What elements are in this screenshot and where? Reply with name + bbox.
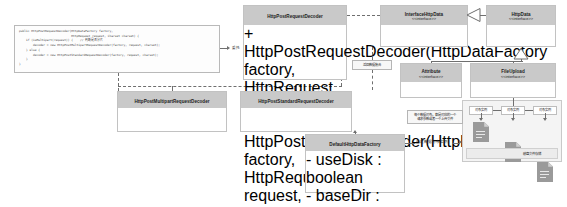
instance-to-doc-arrow (511, 118, 515, 121)
note-connector-returns-collection-down (372, 70, 373, 90)
creates-objects-label: 创建数据对象实例 (416, 139, 448, 144)
disk-storage-strip (466, 148, 558, 159)
empty-compartment (401, 82, 461, 85)
code-snippet-block: public HttpPostRequestDecoder(HttpDataFa… (14, 25, 220, 73)
note-connector-returns-collection (372, 47, 373, 60)
dashed-branch-left-vertical (118, 73, 119, 91)
generalization-arrowhead-httpdata (466, 7, 482, 23)
document-icon (473, 122, 489, 142)
empty-compartment (471, 82, 555, 85)
class-stereotype-text: <<interface>> (412, 17, 436, 22)
instance-connector (493, 110, 501, 111)
generalization-crossbar (431, 61, 523, 62)
document-icon (537, 162, 553, 182)
delegate-label: 委托 (232, 45, 240, 50)
disk-storage-label: 磁盘文件存储 (523, 151, 541, 156)
note-instances: 每个数据对象，都是对应的一个 请求参数或者一个上传文件 (407, 110, 463, 124)
class-http-post-standard-request-decoder-header[interactable]: HttpPostStandardRequestDecoder (240, 91, 352, 108)
field-row: - baseDir : String (306, 187, 404, 207)
class-file-upload-header[interactable]: FileUpload <<interface>> (470, 63, 556, 82)
class-http-data-header[interactable]: HttpData <<interface>> (486, 5, 556, 25)
field-row: - useDisk : boolean (306, 151, 404, 187)
creates-line-left (405, 143, 415, 144)
class-stereotype-text: <<interface>> (419, 75, 443, 80)
instance-connector (525, 110, 533, 111)
class-attribute-header[interactable]: Attribute <<interface>> (400, 63, 462, 82)
class-http-post-multipart-request-decoder-body (117, 108, 227, 132)
class-default-http-data-factory-header[interactable]: DefaultHttpDataFactory (305, 134, 405, 151)
class-http-post-request-decoder-header[interactable]: HttpPostRequestDecoder (243, 5, 347, 25)
delegate-arrow-tip (227, 46, 230, 50)
note-returns-collection: 返回数据集合 (352, 60, 392, 70)
class-http-post-standard-request-decoder-body (240, 108, 352, 132)
class-stereotype-text: <<interface>> (509, 17, 533, 22)
class-interface-http-data-header[interactable]: InterfaceHttpData <<interface>> (380, 5, 468, 25)
class-stereotype-text: <<interface>> (501, 75, 525, 80)
class-http-post-multipart-request-decoder-header[interactable]: HttpPostMultipartRequestDecoder (117, 91, 227, 108)
class-http-post-request-decoder-body: + HttpPostRequestDecoder(HttpDataFactory… (243, 25, 347, 80)
fileupload-to-instances-stem (513, 98, 514, 106)
class-file-upload-body (470, 82, 556, 98)
uml-diagram-canvas: public HttpPostRequestDecoder(HttpDataFa… (0, 0, 567, 207)
empty-compartment (118, 108, 226, 117)
class-interface-http-data-body (380, 25, 468, 47)
link-arrowhead-factory (353, 130, 357, 133)
empty-compartment (241, 108, 351, 117)
class-attribute-body (400, 82, 462, 98)
class-http-data-body (486, 25, 556, 47)
instance-to-doc-arrow (479, 118, 483, 121)
instance-to-doc-arrow (543, 118, 547, 121)
dependency-line-interfacehttpdata (347, 15, 380, 16)
class-default-http-data-factory-body: - useDisk : boolean - baseDir : String -… (305, 151, 405, 193)
